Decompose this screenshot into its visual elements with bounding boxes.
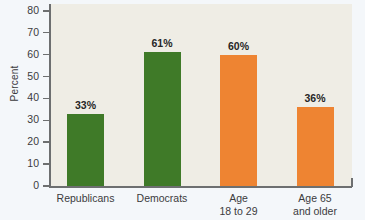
bar-rect[interactable]: [144, 52, 181, 186]
y-axis-title: Percent: [9, 54, 20, 114]
y-axis-tick-label: 50: [27, 70, 39, 82]
y-axis-tick-label: 80: [27, 4, 39, 16]
bar-item[interactable]: 61%Democrats: [144, 52, 181, 186]
y-axis-tick-label: 40: [27, 91, 39, 103]
x-axis-line: [49, 186, 352, 188]
bar-item[interactable]: 33%Republicans: [67, 114, 104, 186]
y-axis-tick-label: 60: [27, 48, 39, 60]
bar-rect[interactable]: [297, 107, 334, 186]
y-axis-tick-mark: [43, 120, 49, 122]
y-axis-tick-label: 70: [27, 26, 39, 38]
bar-item[interactable]: 36%Age 65 and older: [297, 107, 334, 186]
y-axis-tick-mark: [43, 76, 49, 78]
bar-value-label: 33%: [53, 99, 118, 111]
bar-rect[interactable]: [220, 55, 257, 186]
y-axis-line: [49, 4, 51, 187]
y-axis-tick-label: 20: [27, 135, 39, 147]
y-axis-tick-mark: [43, 32, 49, 34]
bar-value-label: 61%: [130, 37, 195, 49]
bar-category-label: Age 65 and older: [271, 192, 360, 217]
bar-chart-figure: Percent 01020304050607080 33%Republicans…: [0, 0, 365, 220]
bar-rect[interactable]: [67, 114, 104, 186]
x-axis-end-tick: [351, 178, 353, 187]
y-axis-tick-label: 30: [27, 113, 39, 125]
y-axis-tick-mark: [43, 185, 49, 187]
y-axis-tick-mark: [43, 163, 49, 165]
y-axis-tick-mark: [43, 141, 49, 143]
bar-item[interactable]: 60%Age 18 to 29: [220, 55, 257, 186]
bar-value-label: 36%: [283, 92, 348, 104]
y-axis-tick-mark: [43, 98, 49, 100]
y-axis-tick-mark: [43, 54, 49, 56]
y-axis-tick-label: 0: [33, 179, 39, 191]
y-axis-tick-mark: [43, 10, 49, 12]
y-axis-tick-label: 10: [27, 157, 39, 169]
bar-value-label: 60%: [206, 40, 271, 52]
